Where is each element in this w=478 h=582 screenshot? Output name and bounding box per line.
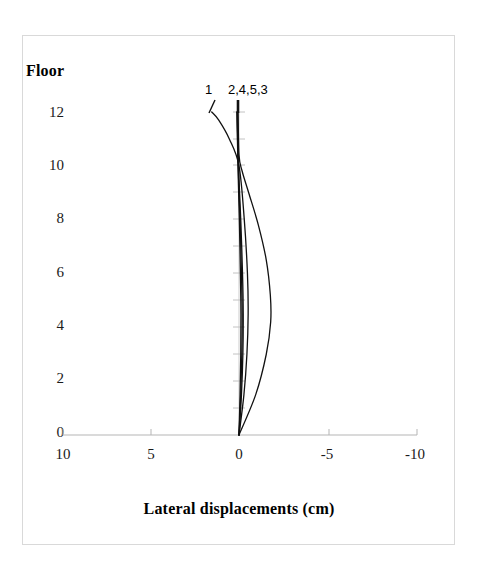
chart-canvas [0, 0, 478, 582]
legend-leader-1 [209, 100, 215, 113]
chart-plot-area: Floor 12 10 8 6 4 2 0 10 5 0 -5 -10 1 2,… [0, 0, 478, 582]
data-series-group [212, 112, 271, 435]
